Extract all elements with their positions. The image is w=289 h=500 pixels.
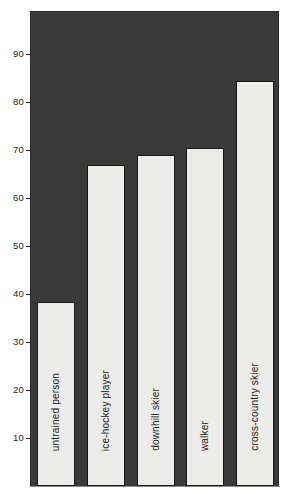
bar: walker [186, 148, 224, 486]
bars-layer: untrained personice-hockey playerdownhil… [31, 12, 278, 486]
y-axis-tick-label: 70 [13, 145, 26, 155]
y-axis-tick-label: 80 [13, 97, 26, 107]
y-axis-tick-label: 40 [13, 289, 26, 299]
plot-area: untrained personice-hockey playerdownhil… [30, 11, 279, 487]
bar-chart-figure: 102030405060708090 untrained personice-h… [0, 0, 289, 500]
bar: ice-hockey player [87, 165, 125, 486]
bar-category-label: downhill skier [151, 388, 161, 451]
y-axis-tick-label: 90 [13, 49, 26, 59]
y-axis-tick-label: 20 [13, 385, 26, 395]
y-axis-tick-label: 60 [13, 193, 26, 203]
bar-category-label: ice-hockey player [101, 370, 111, 451]
y-axis-tick-label: 30 [13, 337, 26, 347]
bar: downhill skier [137, 155, 175, 486]
y-axis-tick-label: 50 [13, 241, 26, 251]
y-axis: 102030405060708090 [0, 0, 30, 500]
bar-category-label: walker [200, 421, 210, 451]
bar: untrained person [37, 302, 75, 486]
bar-category-label: untrained person [51, 373, 61, 451]
x-axis-baseline [30, 486, 280, 487]
bar-category-label: cross-country skier [250, 363, 260, 451]
bar: cross-country skier [236, 81, 274, 486]
y-axis-tick-label: 10 [13, 433, 26, 443]
